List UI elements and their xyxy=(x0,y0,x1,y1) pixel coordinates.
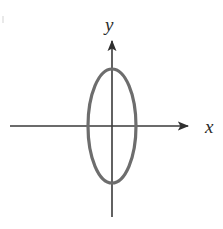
figure-canvas: y x xyxy=(0,0,223,229)
y-axis-label: y xyxy=(103,14,114,35)
x-axis-label: x xyxy=(204,116,214,137)
ellipse-diagram: y x xyxy=(0,0,223,229)
